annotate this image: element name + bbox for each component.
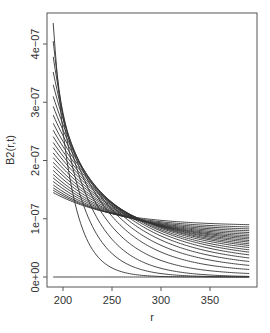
y-tick-label: 3e−07 [29, 87, 41, 118]
y-axis: 0e+001e−072e−073e−074e−07 [29, 29, 47, 293]
x-axis-label: r [150, 311, 154, 323]
x-tick-label: 200 [54, 294, 72, 306]
x-tick-label: 300 [152, 294, 170, 306]
plot-box [47, 13, 257, 287]
curve-series-group [53, 23, 249, 277]
x-tick-label: 350 [201, 294, 219, 306]
y-tick-label: 1e−07 [29, 203, 41, 234]
y-tick-label: 4e−07 [29, 29, 41, 60]
y-axis-label: B2(r,t) [4, 135, 16, 165]
curve-t25 [53, 193, 249, 225]
x-tick-label: 250 [103, 294, 121, 306]
y-tick-label: 0e+00 [29, 262, 41, 293]
line-chart: 200250300350 0e+001e−072e−073e−074e−07 r… [0, 0, 270, 333]
x-axis: 200250300350 [54, 287, 219, 306]
curve-t12 [53, 142, 249, 247]
curve-t11 [53, 137, 249, 250]
y-tick-label: 2e−07 [29, 145, 41, 176]
